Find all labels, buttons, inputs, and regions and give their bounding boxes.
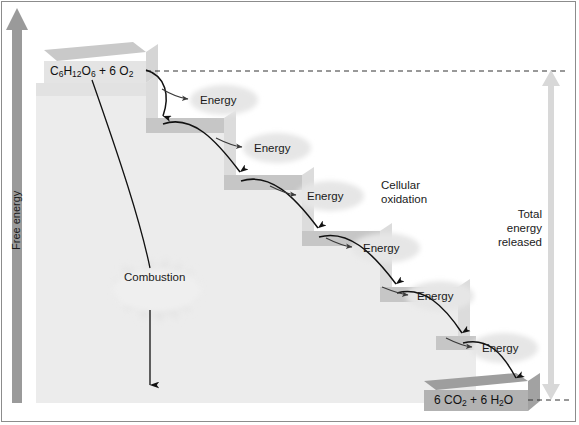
product-formula: 6 CO2 + 6 H2O	[434, 393, 513, 407]
free-energy-axis-label: Free energy	[10, 191, 22, 250]
cellular-oxidation-line1: Cellular	[381, 178, 427, 192]
total-energy-line1: Total	[496, 207, 542, 221]
combustion-label: Combustion	[124, 271, 185, 283]
reactant-formula-text: C6H12O6 + 6 O2	[50, 64, 133, 78]
total-energy-released-label: Total energy released	[496, 207, 542, 249]
energy-label-1: Energy	[200, 94, 236, 106]
total-energy-arrow	[542, 70, 560, 400]
cellular-oxidation-label: Cellular oxidation	[381, 178, 427, 206]
energy-label-5: Energy	[417, 290, 453, 302]
total-energy-line3: released	[496, 235, 542, 249]
staircase-steps	[146, 110, 476, 403]
total-energy-line2: energy	[496, 221, 542, 235]
free-energy-diagram: Free energy C6H12O6 + 6 O2 6 CO2 + 6 H2O…	[0, 0, 579, 425]
product-formula-text: 6 CO2 + 6 H2O	[434, 393, 513, 407]
energy-label-3: Energy	[307, 190, 343, 202]
energy-label-4: Energy	[363, 242, 399, 254]
energy-label-6: Energy	[482, 342, 518, 354]
energy-label-2: Energy	[254, 142, 290, 154]
cellular-oxidation-line2: oxidation	[381, 192, 427, 206]
reactant-formula: C6H12O6 + 6 O2	[50, 64, 133, 78]
